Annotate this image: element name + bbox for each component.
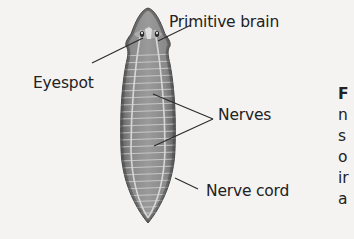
caption-line: F xyxy=(338,84,354,105)
label-nerves: Nerves xyxy=(218,108,271,124)
caption-line: a xyxy=(338,189,354,210)
caption-line: ir xyxy=(338,168,354,189)
caption-line: o xyxy=(338,147,354,168)
caption-line: n xyxy=(338,105,354,126)
label-primitive-brain: Primitive brain xyxy=(169,15,279,31)
label-nerve-cord: Nerve cord xyxy=(206,184,289,200)
caption-fragment: F n s o ir a xyxy=(338,84,354,210)
caption-line: s xyxy=(338,126,354,147)
label-eyespot: Eyespot xyxy=(33,76,94,92)
